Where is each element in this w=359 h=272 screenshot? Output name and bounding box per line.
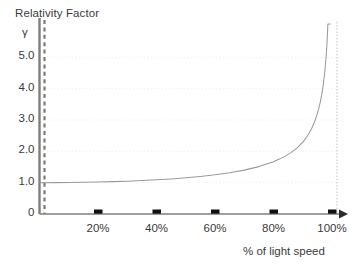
plot-area <box>0 0 359 272</box>
x-tick-label: 20% <box>78 222 118 234</box>
x-tick-label: 40% <box>137 222 177 234</box>
axes <box>40 18 349 219</box>
x-tick-label: 100% <box>312 222 352 234</box>
relativity-curve <box>40 24 331 183</box>
x-axis-title: % of light speed <box>243 245 325 257</box>
x-tick-label: 80% <box>254 222 294 234</box>
x-tick-marks <box>94 210 337 214</box>
y-tick-label: 5.0 <box>9 49 35 61</box>
y-tick-label: 3.0 <box>9 112 35 124</box>
gridlines <box>40 57 346 182</box>
asymptote-lines <box>45 20 338 214</box>
y-tick-label: 0 <box>9 206 35 218</box>
y-tick-label: 1.0 <box>9 175 35 187</box>
y-tick-label: 2.0 <box>9 143 35 155</box>
x-tick-label: 60% <box>195 222 235 234</box>
relativity-factor-chart: Relativity Factor γ 5.0 4.0 3.0 2.0 1.0 … <box>0 0 359 272</box>
y-tick-label: 4.0 <box>9 81 35 93</box>
